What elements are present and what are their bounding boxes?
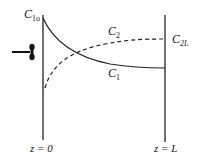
c2-label: C2 — [108, 24, 120, 40]
z0-label: z = 0 — [29, 142, 53, 154]
c2L-label: C2L — [172, 32, 189, 48]
c1o-label: C1o — [24, 7, 40, 23]
c1-label: C1 — [108, 66, 120, 82]
concentration-profile-diagram: C1o C2 C2L C1 z = 0 z = L — [0, 0, 198, 159]
c1-curve — [43, 18, 165, 68]
zL-label: z = L — [153, 142, 177, 154]
inlet-valve-icon — [12, 44, 35, 60]
